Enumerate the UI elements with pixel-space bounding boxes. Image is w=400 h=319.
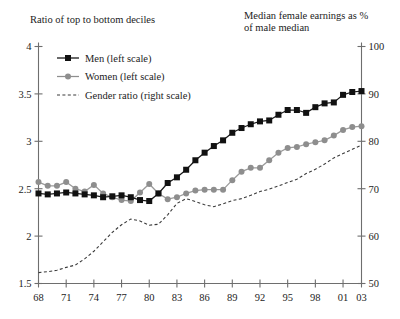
data-point-women: [349, 124, 355, 130]
x-tick-label: 92: [255, 292, 266, 303]
data-point-men: [303, 110, 309, 116]
x-tick-label: 89: [227, 292, 238, 303]
x-tick-label: 77: [116, 292, 127, 303]
data-point-women: [63, 179, 69, 185]
data-point-women: [257, 165, 263, 171]
data-point-men: [128, 194, 134, 200]
data-point-women: [266, 157, 272, 163]
data-point-women: [322, 137, 328, 143]
data-point-men: [202, 150, 208, 156]
data-point-men: [331, 99, 337, 105]
data-point-women: [91, 182, 97, 188]
x-tick-label: 98: [310, 292, 321, 303]
left-tick-label: 2.5: [18, 184, 31, 195]
x-tick-label: 95: [282, 292, 293, 303]
data-point-men: [349, 89, 355, 95]
data-point-men: [183, 167, 189, 173]
filled-square-marker: [65, 55, 71, 61]
data-point-women: [202, 187, 208, 193]
data-point-men: [275, 112, 281, 118]
x-tick-label: 01: [338, 292, 349, 303]
legend-item-gender: Gender ratio (right scale): [57, 90, 191, 102]
chart-legend: Men (left scale)Women (left scale)Gender…: [57, 53, 191, 102]
data-point-men: [257, 118, 263, 124]
data-point-men: [72, 190, 78, 196]
data-point-women: [137, 189, 143, 195]
data-point-men: [91, 192, 97, 198]
data-point-men: [220, 137, 226, 143]
left-tick-label: 2: [26, 231, 31, 242]
data-point-women: [340, 127, 346, 133]
data-point-men: [155, 190, 161, 196]
data-point-women: [229, 177, 235, 183]
left-tick-label: 3: [26, 136, 31, 147]
left-axis-title: Ratio of top to bottom deciles: [30, 14, 155, 26]
right-tick-label: 80: [369, 136, 380, 147]
data-point-men: [36, 190, 42, 196]
data-point-men: [192, 157, 198, 163]
x-tick-label: 71: [61, 292, 72, 303]
data-point-men: [109, 193, 115, 199]
data-point-women: [183, 190, 189, 196]
data-point-women: [165, 196, 171, 202]
legend-item-men: Men (left scale): [57, 53, 152, 65]
data-point-men: [82, 191, 88, 197]
left-tick-label: 1.5: [18, 278, 31, 289]
data-point-women: [220, 187, 226, 193]
legend-label-men: Men (left scale): [85, 53, 152, 65]
data-point-women: [146, 181, 152, 187]
data-point-women: [359, 123, 365, 129]
data-point-women: [303, 141, 309, 147]
x-tick-label: 03: [356, 292, 367, 303]
chart-figure: Ratio of top to bottom deciles Median fe…: [0, 0, 400, 319]
data-point-women: [331, 133, 337, 139]
data-point-men: [63, 189, 69, 195]
data-point-men: [322, 100, 328, 106]
x-tick-label: 83: [172, 292, 183, 303]
data-point-men: [285, 107, 291, 113]
x-tick-label: 80: [144, 292, 155, 303]
chart-canvas: 1.522.533.54 5060708090100 6871747780838…: [0, 0, 400, 319]
right-tick-label: 60: [369, 231, 380, 242]
left-tick-label: 4: [26, 41, 32, 52]
data-point-women: [312, 139, 318, 145]
data-point-women: [275, 150, 281, 156]
data-point-women: [294, 144, 300, 150]
data-point-women: [211, 187, 217, 193]
data-point-men: [239, 125, 245, 131]
data-point-men: [174, 174, 180, 180]
data-point-men: [100, 194, 106, 200]
right-tick-label: 90: [369, 89, 380, 100]
data-point-men: [359, 88, 365, 94]
data-point-women: [285, 145, 291, 151]
data-point-men: [119, 192, 125, 198]
right-tick-label: 50: [369, 278, 380, 289]
data-point-women: [248, 165, 254, 171]
data-point-men: [137, 197, 143, 203]
right-tick-label: 70: [369, 184, 380, 195]
data-point-men: [229, 130, 235, 136]
data-point-men: [248, 121, 254, 127]
legend-label-women: Women (left scale): [85, 71, 165, 83]
data-point-men: [294, 107, 300, 113]
right-axis-title: Median female earnings as % of male medi…: [244, 10, 368, 33]
right-tick-label: 100: [369, 41, 385, 52]
x-tick-label: 68: [33, 292, 44, 303]
series-line-gender: [39, 145, 362, 273]
data-point-men: [45, 191, 51, 197]
data-point-women: [45, 183, 51, 189]
left-tick-label: 3.5: [18, 89, 31, 100]
data-point-men: [54, 190, 60, 196]
data-point-women: [36, 179, 42, 185]
data-point-women: [239, 169, 245, 175]
data-point-women: [174, 194, 180, 200]
data-point-women: [192, 188, 198, 194]
filled-circle-marker: [65, 74, 71, 80]
legend-label-gender: Gender ratio (right scale): [85, 90, 191, 102]
data-point-men: [312, 104, 318, 110]
data-point-men: [266, 117, 272, 123]
data-point-women: [54, 183, 60, 189]
data-point-men: [211, 143, 217, 149]
data-point-men: [340, 92, 346, 98]
x-tick-label: 86: [199, 292, 210, 303]
